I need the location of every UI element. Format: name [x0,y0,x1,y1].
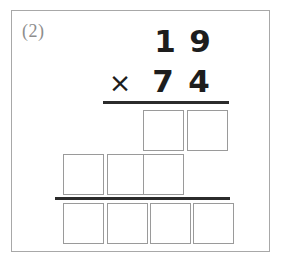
sum-divider-line [55,197,230,200]
multiplicand-tens-digit: 1 [148,26,182,57]
partial-product-1-cell-1[interactable] [143,110,184,151]
problem-number-label: (2) [22,22,45,40]
final-product-cell-2[interactable] [107,203,148,244]
final-product-cell-3[interactable] [150,203,191,244]
multiplication-operator-icon: × [104,69,136,96]
operation-divider-line [103,101,229,104]
multiplication-worksheet: (2) 1 9 × 7 4 [0,0,287,264]
partial-product-2-cell-3[interactable] [143,154,184,195]
final-product-cell-4[interactable] [193,203,234,244]
multiplicand-ones-digit: 9 [183,26,217,57]
final-product-cell-1[interactable] [63,203,104,244]
partial-product-2-cell-1[interactable] [63,154,104,195]
partial-product-2-cell-2[interactable] [107,154,148,195]
multiplier-tens-digit: 7 [146,66,180,97]
partial-product-1-cell-2[interactable] [187,110,228,151]
multiplier-ones-digit: 4 [182,66,216,97]
